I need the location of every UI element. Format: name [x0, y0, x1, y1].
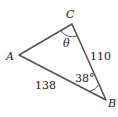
side-label-ab: 138 — [35, 79, 56, 92]
vertex-label-b: B — [107, 97, 116, 110]
angle-arc-b — [90, 85, 100, 92]
vertex-label-c: C — [66, 8, 75, 21]
vertex-label-a: A — [5, 50, 14, 63]
side-label-cb: 110 — [90, 50, 111, 63]
angle-label-theta: θ — [63, 37, 70, 50]
angle-label-b: 38° — [75, 72, 95, 85]
triangle-diagram: C A B θ 110 138 38° — [0, 0, 118, 117]
